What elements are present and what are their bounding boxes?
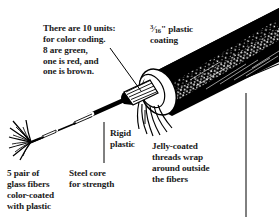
caption-jelly-coated-threads: Jelly-coated threads wrap around outside…	[152, 141, 209, 184]
caption-steel-core: Steel core for strength	[69, 168, 114, 190]
diagram-canvas: There are 10 units: for color coding. 8 …	[0, 0, 279, 217]
coating-fraction: 3⁄16	[150, 24, 161, 34]
caption-plastic-coating: 3⁄16" plastic coating	[150, 23, 193, 46]
fraction-numerator: 3	[150, 23, 153, 30]
caption-color-coded-units: There are 10 units: for color coding. 8 …	[43, 23, 116, 77]
caption-glass-fibers: 5 pair of glass fibers color-coated with…	[7, 168, 54, 211]
frayed-fiber-splay	[9, 120, 41, 160]
caption-rigid-plastic: Rigid plastic	[110, 128, 135, 150]
